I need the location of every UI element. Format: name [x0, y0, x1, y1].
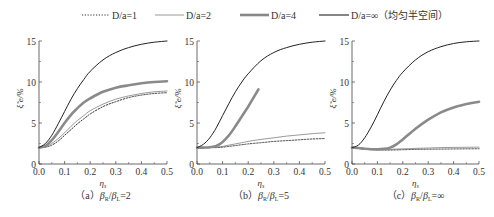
series-line-da1 — [39, 93, 167, 148]
y-tick-label: 10 — [27, 78, 37, 88]
x-tick-label: 0.4 — [448, 167, 460, 177]
x-tick-label: 0.1 — [217, 167, 229, 177]
x-tick-label: 0.4 — [135, 167, 147, 177]
y-tick-label: 5 — [31, 119, 36, 129]
series-line-da — [352, 41, 479, 148]
x-tick-label: 0.2 — [397, 167, 409, 177]
x-tick-label: 0.1 — [59, 167, 71, 177]
y-axis-label: ξ̃ e/% — [328, 88, 338, 108]
y-tick-label: 10 — [185, 78, 195, 88]
x-tick-label: 0.5 — [319, 167, 331, 177]
y-tick-label: 15 — [185, 37, 195, 47]
x-tick-label: 0.0 — [33, 167, 45, 177]
legend-label: D/a=1 — [112, 10, 137, 21]
x-tick-label: 0.0 — [191, 167, 203, 177]
x-tick-label: 0.0 — [346, 167, 358, 177]
y-tick-label: 5 — [189, 119, 194, 129]
x-tick-label: 0.1 — [371, 167, 383, 177]
series-line-da4 — [352, 102, 479, 150]
legend-item-da1: D/a=1 — [82, 10, 137, 21]
series-line-da4 — [197, 89, 258, 147]
panel-caption: （a）βR/βL=2 — [75, 190, 131, 202]
series-line-da2 — [39, 91, 167, 148]
legend-item-da4: D/a=4 — [240, 10, 296, 21]
y-axis-label: ξ̃ e/% — [15, 88, 25, 108]
legend-label: D/a=∞（均匀半空间） — [351, 9, 448, 21]
x-tick-label: 0.2 — [84, 167, 96, 177]
legend-label: D/a=4 — [271, 10, 296, 21]
chart-panel-b: 0510150.00.10.20.30.40.5ηsξ̃ e/%（b）βR/βL… — [173, 37, 331, 203]
panel-caption: （b）βR/βL=5 — [233, 190, 289, 202]
legend-label: D/a=2 — [186, 10, 211, 21]
x-tick-label: 0.4 — [293, 167, 305, 177]
y-tick-label: 5 — [344, 119, 349, 129]
chart-panel-c: 0510150.00.10.20.30.40.5ηsξ̃ e/%（c）βR/βL… — [328, 37, 485, 203]
y-tick-label: 15 — [27, 37, 37, 47]
y-tick-label: 15 — [340, 37, 350, 47]
panel-caption: （c）βR/βL=∞ — [387, 190, 445, 202]
y-axis-label: ξ̃ e/% — [173, 88, 183, 108]
x-tick-label: 0.5 — [473, 167, 485, 177]
chart-panel-a: 0510150.00.10.20.30.40.5ηsξ̃ e/%（a）βR/βL… — [15, 37, 173, 203]
series-line-da — [197, 41, 325, 148]
x-axis-label: ηs — [258, 178, 265, 189]
figure: D/a=1 D/a=2 D/a=4 D/a=∞（均匀半空间） 0510150.0… — [0, 0, 494, 217]
x-tick-label: 0.5 — [161, 167, 173, 177]
x-tick-label: 0.3 — [268, 167, 280, 177]
legend-item-da2: D/a=2 — [155, 10, 211, 21]
x-tick-label: 0.3 — [110, 167, 122, 177]
x-axis-label: ηs — [412, 178, 419, 189]
series-line-da4 — [39, 81, 167, 147]
y-tick-label: 10 — [340, 78, 350, 88]
x-tick-label: 0.3 — [422, 167, 434, 177]
x-tick-label: 0.2 — [242, 167, 254, 177]
legend-item-dainf: D/a=∞（均匀半空间） — [319, 9, 448, 21]
legend: D/a=1 D/a=2 D/a=4 D/a=∞（均匀半空间） — [82, 9, 448, 21]
x-axis-label: ηs — [100, 178, 107, 189]
